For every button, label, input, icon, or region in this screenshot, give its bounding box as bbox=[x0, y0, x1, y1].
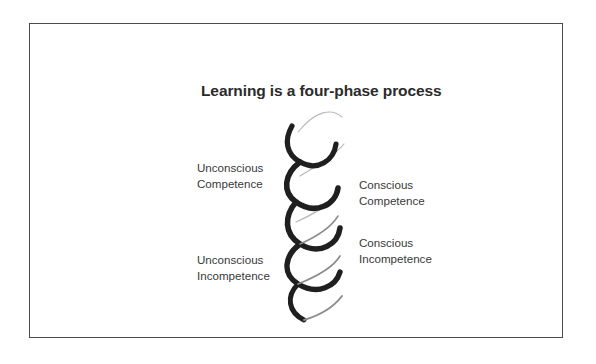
phase-label-line-2: Competence bbox=[359, 193, 425, 209]
phase-label-line-1: Conscious bbox=[359, 235, 432, 251]
helix-svg bbox=[270, 104, 390, 334]
phase-label-line-1: Unconscious bbox=[197, 160, 263, 176]
page-title: Learning is a four-phase process bbox=[201, 82, 442, 100]
phase-label-line-2: Incompetence bbox=[359, 251, 432, 267]
phase-label-unconscious-incompetence: Unconscious Incompetence bbox=[197, 252, 270, 283]
phase-label-line-1: Unconscious bbox=[197, 252, 270, 268]
phase-label-line-2: Incompetence bbox=[197, 268, 270, 284]
phase-label-line-1: Conscious bbox=[359, 177, 425, 193]
phase-label-line-2: Competence bbox=[197, 176, 263, 192]
phase-label-unconscious-competence: Unconscious Competence bbox=[197, 160, 263, 191]
phase-label-conscious-competence: Conscious Competence bbox=[359, 177, 425, 208]
figure-frame: Learning is a four-phase process bbox=[29, 23, 563, 338]
helix-diagram bbox=[270, 104, 390, 334]
figure-canvas: Learning is a four-phase process bbox=[0, 0, 596, 364]
phase-label-conscious-incompetence: Conscious Incompetence bbox=[359, 235, 432, 266]
helix-crossing-strand bbox=[298, 216, 342, 320]
